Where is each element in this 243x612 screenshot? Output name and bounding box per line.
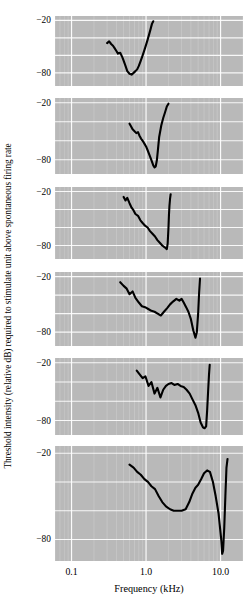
tuning-curve-5-plot xyxy=(55,358,243,435)
tuning-curve-5 xyxy=(137,365,210,429)
x-tick-0-1: 0.1 xyxy=(65,566,77,577)
gridlines xyxy=(55,16,243,86)
tuning-curve-5-panel xyxy=(55,358,243,435)
y-tick-minus80: −80 xyxy=(0,535,51,543)
y-tick-minus80: −80 xyxy=(0,242,51,250)
tuning-curve-2-plot xyxy=(55,98,243,174)
y-tick-minus20: −20 xyxy=(0,99,51,107)
tuning-curve-2-panel xyxy=(55,98,243,174)
x-axis-label: Frequency (kHz) xyxy=(55,583,243,594)
tuning-curve-6-panel xyxy=(55,446,243,561)
y-tick-minus80: −80 xyxy=(0,328,51,336)
tuning-curve-1-plot xyxy=(55,16,243,86)
tuning-curve-2 xyxy=(130,104,169,168)
y-tick-minus20: −20 xyxy=(0,273,51,281)
x-tick-10-0: 10.0 xyxy=(212,566,229,577)
tuning-curve-4-panel xyxy=(55,272,243,346)
tuning-curve-1-panel xyxy=(55,16,243,86)
y-axis-label: Threshold intensity (relative dB) requir… xyxy=(0,0,16,612)
tuning-curves-figure: Threshold intensity (relative dB) requir… xyxy=(0,0,243,612)
y-tick-minus20: −20 xyxy=(0,188,51,196)
y-tick-minus80: −80 xyxy=(0,69,51,77)
tuning-curve-3 xyxy=(124,194,171,249)
tuning-curve-3-plot xyxy=(55,187,243,259)
y-tick-minus80: −80 xyxy=(0,417,51,425)
y-tick-minus20: −20 xyxy=(0,449,51,457)
y-tick-minus20: −20 xyxy=(0,16,51,24)
tuning-curve-6-plot xyxy=(55,446,243,561)
tuning-curve-3-panel xyxy=(55,187,243,259)
gridlines xyxy=(55,358,243,435)
tuning-curve-4 xyxy=(120,278,200,337)
y-tick-minus20: −20 xyxy=(0,359,51,367)
x-tick-1-0: 1.0 xyxy=(140,566,152,577)
y-tick-minus80: −80 xyxy=(0,156,51,164)
gridlines xyxy=(55,98,243,174)
gridlines xyxy=(55,187,243,259)
gridlines xyxy=(55,446,243,561)
tuning-curve-4-plot xyxy=(55,272,243,346)
